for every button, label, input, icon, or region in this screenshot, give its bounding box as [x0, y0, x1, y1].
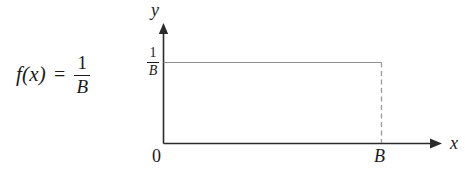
origin-label: 0 — [152, 147, 161, 165]
y-tick-fraction: 1 B — [147, 46, 160, 78]
figure-root: f(x) = 1 B y x 0 B 1 B — [0, 0, 465, 191]
x-axis-label: x — [450, 134, 458, 152]
y-axis-label: y — [151, 1, 159, 19]
x-axis-arrowhead-icon — [430, 139, 442, 149]
y-tick-label-one-over-b: 1 B — [145, 45, 161, 77]
y-tick-fraction-numerator: 1 — [148, 46, 159, 61]
y-tick-fraction-denominator: B — [147, 64, 160, 79]
x-tick-label-b: B — [374, 147, 385, 165]
y-axis-arrowhead-icon — [159, 23, 168, 34]
uniform-distribution-plot — [0, 0, 465, 191]
